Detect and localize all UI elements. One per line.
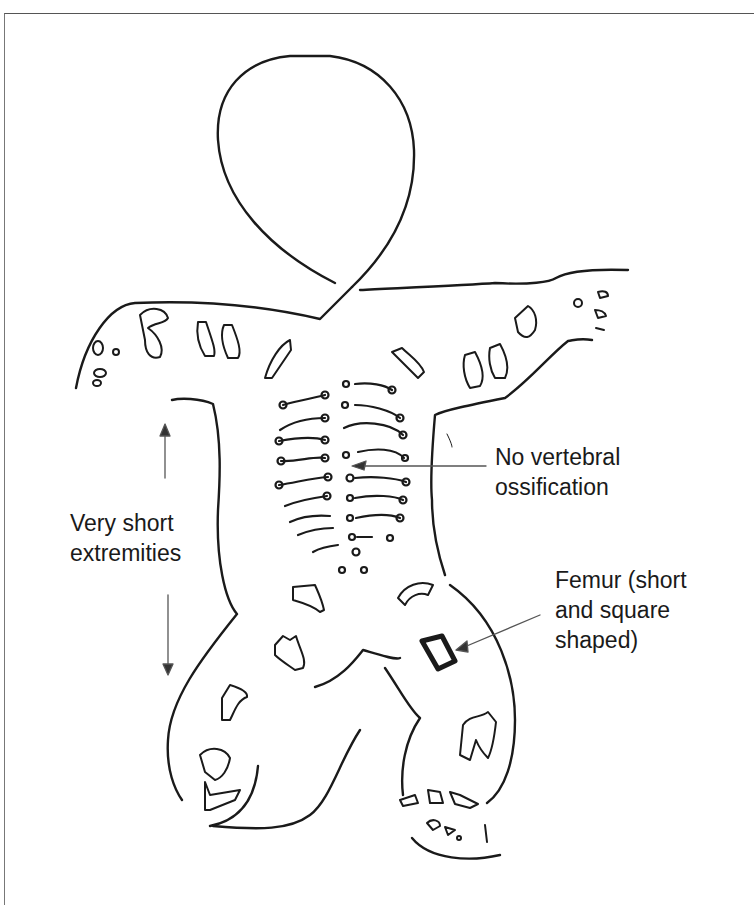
left-leg-inner-outline [315,650,400,687]
head-outline [218,56,414,287]
arrow-down-icon [163,664,173,675]
annotation-no-vertebral-ossification: No vertebralossification [495,442,620,502]
femur-arrowhead-icon [456,641,468,652]
left-arm-bones [93,309,291,386]
left-leg-outline [213,730,360,828]
femur-arrow-line [462,615,540,648]
vertebral-arrowhead-icon [352,461,366,470]
femur-highlight [422,636,455,669]
fetus-skeleton-drawing [0,0,754,905]
neck-line [447,434,452,447]
arrow-up-icon [160,424,170,436]
annotation-femur: Femur (shortand squareshaped) [555,565,687,655]
right-leg-outline [450,585,515,803]
annotation-very-short-extremities: Very shortextremities [70,508,181,568]
right-leg-inner-outline [385,668,420,795]
annotation-line: No vertebral [495,442,620,472]
annotation-line: Very short [70,508,181,538]
left-arm-outline [76,287,352,388]
annotation-line: shaped) [555,625,687,655]
annotation-line: extremities [70,538,181,568]
ribcage [276,381,410,573]
annotation-arrows [160,424,540,675]
left-foot-arc [210,766,258,826]
left-torso-outline [168,399,237,800]
annotation-line: Femur (short [555,565,687,595]
pelvis-and-leg-bones [200,583,496,842]
annotation-line: and square [555,595,687,625]
annotation-line: ossification [495,472,620,502]
right-arm-outline [360,270,628,290]
